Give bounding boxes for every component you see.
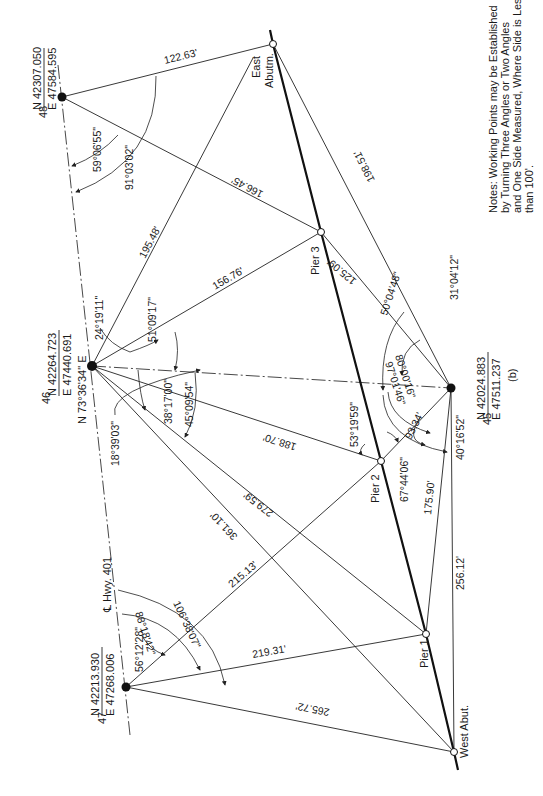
angle-46-5: 18°39'03" (109, 421, 121, 466)
dist-48-ea: 122.63' (163, 46, 199, 66)
notes-line-2: by Turning Three Angles or Two Angles (499, 22, 511, 213)
dist-46-p1: 279.59' (241, 489, 275, 519)
angle-45-5: 40°16'52" (454, 415, 466, 460)
dist-46-p2: 188.70' (261, 432, 297, 454)
survey-diagram: 48 N 42307.050 E 47584.595 46 N 42264.72… (0, 0, 543, 796)
pier3-label: Pier 3 (309, 246, 321, 275)
east-abut-marker (270, 41, 277, 48)
dist-46-ea: 195.48' (136, 224, 163, 260)
triangulation-figure: 48 N 42307.050 E 47584.595 46 N 42264.72… (0, 0, 543, 796)
p47-east: E 47268.006 (104, 654, 116, 716)
dist-47-p2: 215.13' (226, 558, 260, 589)
angle-46-3: 38°17'00" (162, 379, 174, 424)
p47-north: N 42213.930 (89, 653, 101, 716)
dist-46-p3: 156.76' (210, 264, 246, 291)
east-abut-label-1: East (250, 56, 262, 78)
p46-east: E 47440.691 (61, 334, 73, 396)
angle-46-2: 51°09'17" (146, 297, 158, 342)
notes-block: Notes: Working Points may be Established… (487, 0, 535, 213)
angle-46-4: 45°09'54" (183, 382, 195, 427)
dist-48-p3: 166.45' (229, 174, 265, 201)
dist-45-p3: 125.09' (324, 257, 358, 288)
angle-45-2: 50°04'48" (377, 270, 402, 317)
point-47-marker (122, 683, 131, 692)
notes-line-3: and One Side Measured, Where Side is Les… (511, 0, 523, 213)
figure-label: (b) (506, 369, 518, 382)
notes-line-4: than 100'. (523, 165, 535, 213)
p48-north: N 42307.050 (31, 47, 43, 110)
p45-north: N 42024.883 (475, 357, 487, 420)
dist-45-p2: 93.34' (402, 410, 425, 441)
point-45-marker (447, 384, 456, 393)
p45-east: E 47511.237 (490, 358, 502, 420)
pier1-label: Pier 1 (418, 639, 430, 668)
centerline-label: ℄ Hwy. 401 (101, 557, 113, 613)
pier3-marker (318, 229, 325, 236)
dist-45-p1: 175.90' (421, 480, 437, 515)
angle-45-1: 31°04'12" (448, 255, 460, 300)
bearing-label: N 73°36'34" E (76, 355, 88, 424)
pier1-marker (423, 631, 430, 638)
point-46-marker (87, 361, 97, 371)
angle-p2-2: 67°44'06" (398, 457, 410, 502)
dist-47-p1: 219.31' (251, 642, 287, 660)
east-abut-label-2: Abutm. (263, 53, 275, 88)
p46-north: N 42264.723 (46, 333, 58, 396)
west-abut-marker (451, 749, 458, 756)
angle-p2-1: 53°19'59" (348, 402, 360, 447)
point-48-marker (58, 93, 67, 102)
angle-48-2: 91°03'02" (123, 145, 135, 190)
p48-east: E 47584.595 (46, 48, 58, 110)
dist-46-wa: 361.10' (207, 510, 239, 543)
notes-line-1: Notes: Working Points may be Established (487, 5, 499, 213)
angle-46-1: 24°19'11" (93, 296, 105, 340)
pier2-label: Pier 2 (369, 474, 381, 503)
west-abut-label: West Abut. (458, 705, 470, 758)
dist-47-wa: 265.72' (295, 701, 331, 719)
dist-45-ea: 198.51' (351, 149, 377, 185)
pier2-marker (378, 458, 385, 465)
dist-45-wa: 256.12' (454, 556, 466, 590)
angle-48-1: 59°06'55" (91, 127, 103, 172)
